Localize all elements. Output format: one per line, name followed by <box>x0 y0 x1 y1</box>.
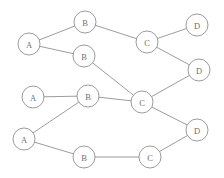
graph-edge-b-to-c <box>93 63 134 95</box>
graph-node-d-upper-mid[interactable]: D <box>188 59 210 81</box>
node-label: D <box>194 21 200 31</box>
graph-edge-c-to-d <box>160 135 188 151</box>
graph-canvas: BDCABDABCDABC <box>0 0 224 178</box>
graph-node-b-bottom[interactable]: B <box>73 146 95 168</box>
node-label: B <box>81 153 87 163</box>
graph-node-d-bottom[interactable]: D <box>186 119 208 141</box>
node-label: A <box>26 40 33 50</box>
graph-node-b-upper-mid[interactable]: B <box>73 45 95 67</box>
graph-diagram: BDCABDABCDABC <box>0 0 224 178</box>
graph-edge-c-to-d <box>157 47 190 65</box>
graph-edge-a-to-b <box>40 46 74 53</box>
graph-node-b-top[interactable]: B <box>74 11 96 33</box>
graph-node-a-top[interactable]: A <box>18 33 40 55</box>
node-label: B <box>82 18 88 28</box>
graph-node-c-top[interactable]: C <box>136 31 158 53</box>
graph-edge-d-to-c <box>152 75 190 96</box>
graph-edge-b-to-c <box>99 97 131 101</box>
graph-edge-b-to-c <box>95 25 136 38</box>
graph-node-b-mid[interactable]: B <box>77 85 99 107</box>
node-label: B <box>85 92 91 102</box>
node-label: C <box>144 38 150 48</box>
node-label: C <box>147 153 153 163</box>
graph-edge-a-to-b <box>39 26 75 40</box>
node-label: B <box>81 52 87 62</box>
node-label: A <box>30 93 37 103</box>
graph-node-c-bottom[interactable]: C <box>139 146 161 168</box>
graph-node-c-mid[interactable]: C <box>131 91 153 113</box>
node-label: A <box>21 135 28 145</box>
graph-edge-a-to-b <box>35 142 74 154</box>
graph-edge-c-to-d <box>152 107 187 125</box>
graph-node-a-mid[interactable]: A <box>22 86 44 108</box>
graph-edge-c-to-d <box>157 29 186 39</box>
graph-node-a-bottom[interactable]: A <box>13 128 35 150</box>
node-label: D <box>194 126 200 136</box>
graph-edge-a-to-b <box>33 102 79 133</box>
graph-node-d-top[interactable]: D <box>186 14 208 36</box>
graph-edge-a-to-b <box>44 96 77 97</box>
edge-layer <box>33 25 189 157</box>
node-label: D <box>196 66 202 76</box>
node-label: C <box>139 98 145 108</box>
